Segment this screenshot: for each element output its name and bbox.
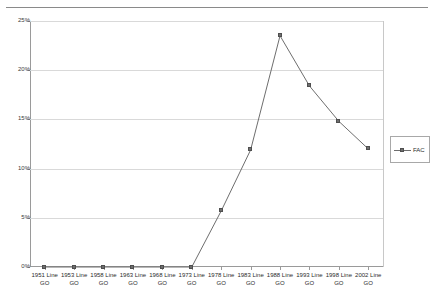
- data-point-marker: [72, 265, 76, 269]
- data-point-marker: [219, 208, 223, 212]
- data-point-marker: [366, 146, 370, 150]
- legend-marker-icon: [394, 147, 411, 154]
- chart-legend: FAC: [390, 136, 430, 163]
- legend-label: FAC: [413, 147, 425, 154]
- data-point-marker: [278, 33, 282, 37]
- data-point-marker: [189, 265, 193, 269]
- data-point-marker: [160, 265, 164, 269]
- data-point-marker: [42, 265, 46, 269]
- data-point-marker: [336, 119, 340, 123]
- data-point-marker: [307, 83, 311, 87]
- data-point-marker: [248, 147, 252, 151]
- page-separator-rule: [6, 7, 428, 8]
- chart-container: 0%5%10%15%20%25% 1951 Line GO1953 Line G…: [0, 12, 434, 304]
- series-line-fac: [0, 12, 434, 304]
- data-point-marker: [101, 265, 105, 269]
- legend-entry-fac: FAC: [391, 146, 431, 155]
- data-point-marker: [130, 265, 134, 269]
